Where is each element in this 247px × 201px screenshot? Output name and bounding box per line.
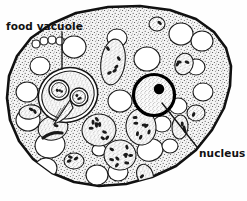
figure-canvas: food vacuole nucleus <box>0 0 247 201</box>
bacteria-vacuole <box>64 153 84 169</box>
clear-vacuole <box>48 36 56 44</box>
label-nucleus: nucleus <box>199 148 245 159</box>
clear-vacuole <box>62 36 86 58</box>
engulfed-cell-inner <box>73 91 86 104</box>
nucleolus <box>154 84 164 94</box>
nucleus <box>134 75 175 116</box>
clear-vacuole <box>30 57 50 75</box>
engulfed-cell-granule-icon <box>60 90 63 93</box>
clear-vacuole <box>86 165 108 185</box>
clear-vacuole <box>134 47 160 71</box>
clear-vacuole <box>32 40 40 48</box>
cytoplasm-contents <box>16 17 213 188</box>
clear-vacuole <box>40 37 48 45</box>
clear-vacuole <box>162 139 178 153</box>
bacteria-vacuole <box>187 105 205 121</box>
engulfed-cell-granule-icon <box>76 94 79 97</box>
clear-vacuole <box>108 90 132 112</box>
label-food-vacuole: food vacuole <box>6 21 83 32</box>
clear-vacuole <box>56 37 64 45</box>
clear-vacuole <box>193 83 213 101</box>
engulfed-cell-granule-icon <box>79 97 82 100</box>
engulfed-cell-granule-icon <box>56 89 59 92</box>
nuclear-membrane <box>134 75 175 116</box>
clear-vacuole <box>191 31 213 51</box>
clear-vacuole <box>16 82 38 102</box>
clear-vacuole <box>169 23 193 45</box>
bacteria-vacuole <box>149 17 165 31</box>
